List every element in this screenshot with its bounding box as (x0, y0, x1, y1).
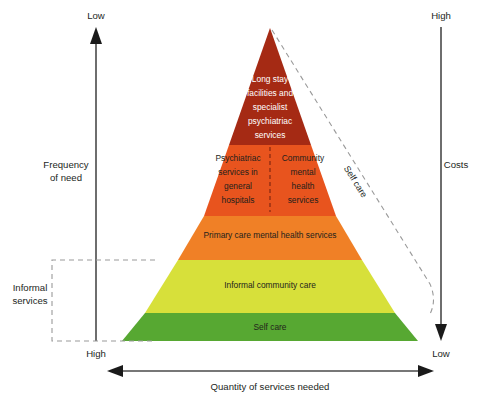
tier-long-stay-shape (229, 28, 311, 145)
tier1-line-5: services (255, 130, 286, 140)
tier2-right-line-1: Community (282, 153, 325, 163)
tier1-line-4: psychiatriac (248, 116, 292, 126)
tier2-left-line-2: services in (218, 167, 258, 177)
bottom-axis-arrow-left-icon (107, 365, 123, 377)
bottom-axis-caption: Quantity of services needed (211, 381, 330, 392)
tier-label-self-care: Self care (253, 322, 286, 332)
bottom-axis: Quantity of services needed (107, 365, 434, 392)
right-axis-bottom-label: Low (432, 348, 450, 359)
tier-label-primary-care: Primary care mental health services (203, 230, 336, 240)
tier2-right-line-2: mental (290, 167, 315, 177)
left-axis-name-line-2: of need (50, 172, 82, 183)
tier1-line-1: Long stay (252, 74, 289, 84)
tier-label-informal-community-care: Informal community care (224, 280, 316, 290)
tier2-left-line-1: Psychiatriac (215, 153, 260, 163)
informal-services-label-line-1: Informal (13, 282, 48, 293)
tier1-line-3: specialist (253, 102, 288, 112)
pyramid-diagram: Long stay facilities and specialist psyc… (0, 0, 477, 397)
tier2-right-line-3: health (292, 181, 315, 191)
self-care-diagonal-label: Self care (342, 164, 369, 199)
bottom-axis-arrow-right-icon (418, 365, 434, 377)
tier2-left-line-4: hospitals (221, 195, 254, 205)
right-axis-arrow-down-icon (435, 324, 447, 341)
right-axis: High Low Costs (431, 10, 468, 359)
tier1-line-2: facilities and (247, 88, 293, 98)
tier2-right-line-4: services (288, 195, 319, 205)
left-axis: Low High Frequency of need (43, 10, 106, 359)
right-axis-name: Costs (444, 159, 469, 170)
diagram-canvas: Long stay facilities and specialist psyc… (0, 0, 477, 397)
left-axis-bottom-label: High (86, 348, 106, 359)
informal-services-label-line-2: services (12, 295, 47, 306)
tier2-left-line-3: general (224, 181, 252, 191)
left-axis-arrow-up-icon (90, 27, 102, 44)
left-axis-name-line-1: Frequency (43, 159, 89, 170)
left-axis-top-label: Low (87, 10, 105, 21)
right-axis-top-label: High (431, 10, 451, 21)
